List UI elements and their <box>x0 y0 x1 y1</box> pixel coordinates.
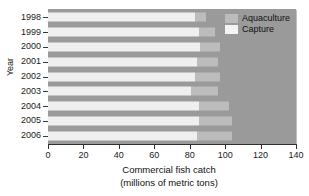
y-tick-label: 1998 <box>8 10 42 25</box>
bar-segment-capture <box>48 116 199 125</box>
x-tick-mark <box>154 144 155 149</box>
bar-row <box>48 40 296 55</box>
legend-item-capture: Capture <box>225 24 290 34</box>
bar-row <box>48 113 296 128</box>
legend-swatch-aquaculture <box>225 14 238 23</box>
bar-row <box>48 69 296 84</box>
bar-row <box>48 99 296 114</box>
bar-segment-capture <box>48 87 191 96</box>
bar-segment-capture <box>48 42 200 51</box>
bar-row <box>48 128 296 143</box>
stacked-bar <box>48 87 218 96</box>
y-tick-label: 2006 <box>8 128 42 143</box>
bar-segment-aquaculture <box>195 72 220 81</box>
y-tick-label: 2002 <box>8 69 42 84</box>
bar-segment-capture <box>48 57 197 66</box>
x-tick-label: 0 <box>45 150 50 161</box>
y-tick-label: 2001 <box>8 54 42 69</box>
x-tick-mark <box>225 144 226 149</box>
bar-segment-capture <box>48 13 195 22</box>
bar-segment-aquaculture <box>195 13 206 22</box>
bar-row <box>48 54 296 69</box>
legend-label-aquaculture: Aquaculture <box>242 13 290 23</box>
x-tick-label: 120 <box>253 150 268 161</box>
y-tick-label: 2004 <box>8 99 42 114</box>
stacked-bar <box>48 131 232 140</box>
bar-segment-capture <box>48 28 199 37</box>
x-axis-tick-labels: 020406080100120140 <box>48 150 296 162</box>
bar-segment-aquaculture <box>199 28 215 37</box>
x-axis-label: Commercial fish catch (millions of metri… <box>40 163 298 189</box>
x-tick-label: 20 <box>78 150 88 161</box>
x-tick-label: 100 <box>218 150 233 161</box>
bar-segment-aquaculture <box>200 42 219 51</box>
y-tick-label: 2005 <box>8 113 42 128</box>
bar-segment-aquaculture <box>197 57 218 66</box>
bar-segment-capture <box>48 72 195 81</box>
y-tick-label: 2003 <box>8 84 42 99</box>
bar-segment-aquaculture <box>199 116 233 125</box>
bar-segment-aquaculture <box>199 102 229 111</box>
x-tick-mark <box>296 144 297 149</box>
x-axis-tick-marks <box>48 144 296 149</box>
chart-figure: Year 19981999200020012002200320042005200… <box>0 0 309 196</box>
x-tick-mark <box>119 144 120 149</box>
stacked-bar <box>48 13 206 22</box>
stacked-bar <box>48 57 218 66</box>
plot-area: Aquaculture Capture <box>48 9 296 144</box>
x-tick-mark <box>83 144 84 149</box>
stacked-bar <box>48 72 220 81</box>
x-axis-label-line2: (millions of metric tons) <box>40 176 298 189</box>
bar-segment-aquaculture <box>197 131 232 140</box>
x-axis-label-line1: Commercial fish catch <box>122 164 215 175</box>
legend-label-capture: Capture <box>242 24 274 34</box>
x-tick-label: 60 <box>149 150 159 161</box>
x-tick-label: 80 <box>185 150 195 161</box>
y-tick-label: 2000 <box>8 40 42 55</box>
y-axis-tick-labels: 199819992000200120022003200420052006 <box>8 10 42 143</box>
y-tick-label: 1999 <box>8 25 42 40</box>
legend-swatch-capture <box>225 25 238 34</box>
x-tick-mark <box>48 144 49 149</box>
stacked-bar <box>48 42 220 51</box>
bar-segment-aquaculture <box>191 87 218 96</box>
bar-segment-capture <box>48 131 197 140</box>
x-tick-label: 40 <box>114 150 124 161</box>
stacked-bar <box>48 28 215 37</box>
stacked-bar <box>48 102 229 111</box>
stacked-bar <box>48 116 232 125</box>
bar-segment-capture <box>48 102 199 111</box>
x-tick-mark <box>190 144 191 149</box>
x-tick-label: 140 <box>288 150 303 161</box>
chart-legend: Aquaculture Capture <box>223 12 292 35</box>
x-tick-mark <box>261 144 262 149</box>
bar-row <box>48 84 296 99</box>
legend-item-aquaculture: Aquaculture <box>225 13 290 23</box>
